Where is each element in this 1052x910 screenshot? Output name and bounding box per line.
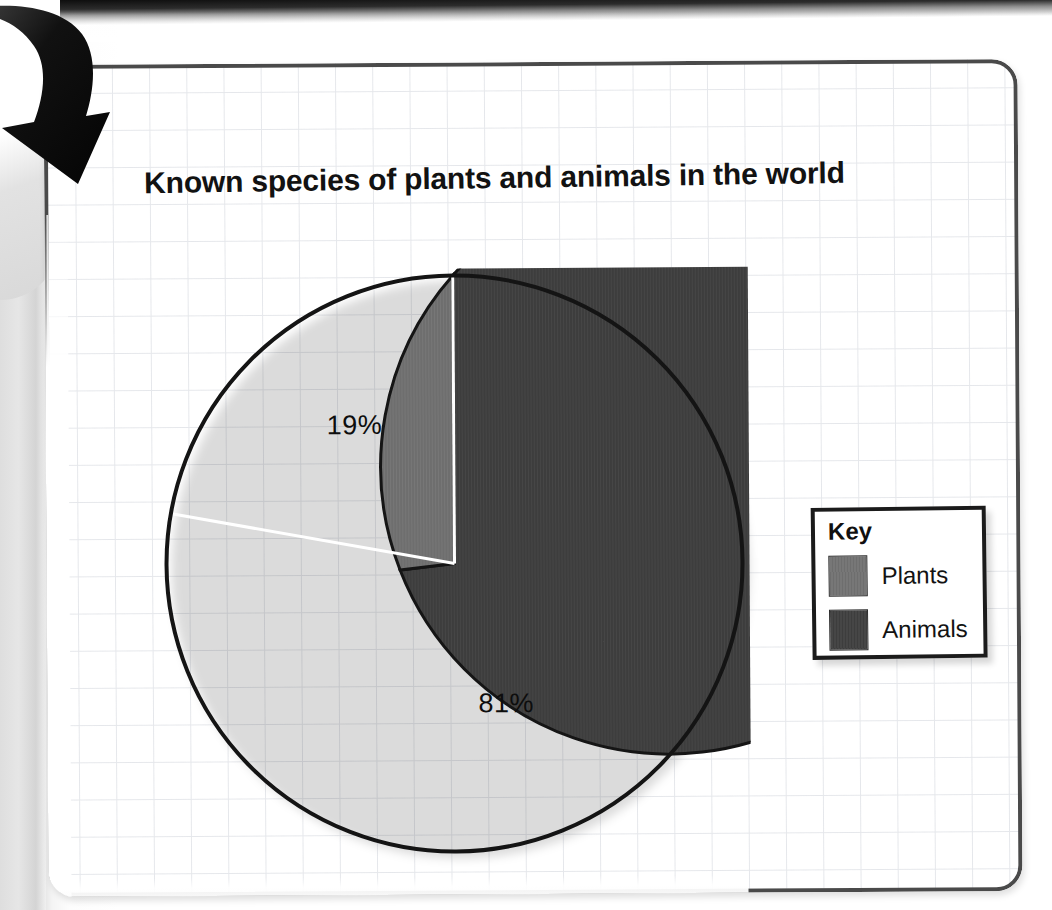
legend-item-animals[interactable]: Animals	[829, 608, 968, 651]
pie-svg	[158, 267, 752, 861]
pie-separator-top	[453, 275, 455, 563]
legend-key-box: Key Plants Animals	[811, 506, 988, 660]
legend-label-animals: Animals	[882, 614, 968, 643]
legend-swatch-plants	[828, 555, 868, 597]
scan-background: Known species of plants and animals in t…	[0, 0, 1052, 910]
pie-chart: 19% 81%	[158, 267, 752, 861]
legend-heading: Key	[828, 517, 872, 546]
page-top-edge-fade	[0, 12, 1052, 42]
pie-slice-plants[interactable]	[380, 275, 455, 570]
legend-label-plants: Plants	[881, 561, 948, 590]
chart-card: Known species of plants and animals in t…	[43, 59, 1022, 897]
pie-label-plants: 19%	[327, 410, 383, 441]
pie-label-animals: 81%	[478, 688, 534, 719]
legend-item-plants[interactable]: Plants	[828, 554, 948, 597]
legend-swatch-animals	[829, 609, 869, 651]
